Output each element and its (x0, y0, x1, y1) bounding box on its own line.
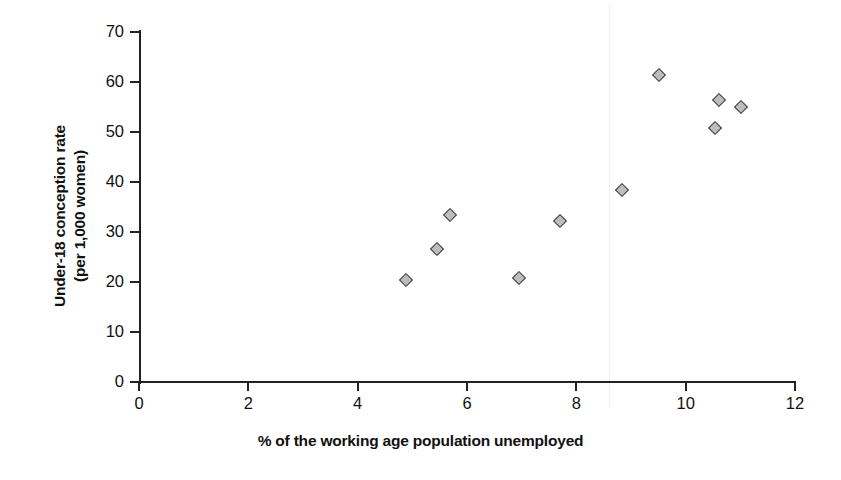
y-tick-label: 60 (78, 73, 124, 89)
y-tick-mark (130, 331, 139, 333)
x-tick-label: 6 (447, 395, 487, 411)
x-axis-label: % of the working age population unemploy… (0, 432, 841, 450)
data-point-marker (615, 183, 629, 197)
x-tick-mark (138, 382, 140, 391)
data-point-marker (553, 214, 567, 228)
x-tick-label: 0 (119, 395, 159, 411)
x-tick-mark (466, 382, 468, 391)
plot-area (139, 32, 795, 382)
x-tick-label: 8 (556, 395, 596, 411)
scatter-chart: Under-18 conception rate (per 1,000 wome… (0, 0, 841, 480)
x-tick-mark (794, 382, 796, 391)
x-tick-label: 12 (775, 395, 815, 411)
y-tick-label: 0 (78, 373, 124, 389)
data-point-marker (712, 93, 726, 107)
data-point-marker (430, 242, 444, 256)
x-tick-mark (575, 382, 577, 391)
y-tick-label: 30 (78, 223, 124, 239)
data-point-marker (443, 208, 457, 222)
y-axis-label: Under-18 conception rate (per 1,000 wome… (50, 36, 90, 396)
y-axis-label-line2: (per 1,000 women) (70, 36, 90, 396)
y-tick-label: 10 (78, 323, 124, 339)
y-tick-label: 50 (78, 123, 124, 139)
y-tick-mark (130, 81, 139, 83)
x-tick-mark (685, 382, 687, 391)
y-axis-label-line1: Under-18 conception rate (51, 125, 68, 307)
x-tick-label: 10 (666, 395, 706, 411)
y-tick-mark (130, 281, 139, 283)
data-point-marker (399, 273, 413, 287)
x-tick-mark (247, 382, 249, 391)
x-tick-label: 2 (228, 395, 268, 411)
x-tick-mark (357, 382, 359, 391)
y-tick-mark (130, 131, 139, 133)
y-tick-mark (130, 31, 139, 33)
y-tick-mark (130, 181, 139, 183)
data-point-marker (652, 67, 666, 81)
y-tick-mark (130, 231, 139, 233)
data-point-marker (512, 270, 526, 284)
y-tick-label: 20 (78, 273, 124, 289)
data-point-marker (734, 100, 748, 114)
y-tick-label: 70 (78, 23, 124, 39)
x-tick-label: 4 (338, 395, 378, 411)
y-tick-label: 40 (78, 173, 124, 189)
data-point-marker (708, 121, 722, 135)
